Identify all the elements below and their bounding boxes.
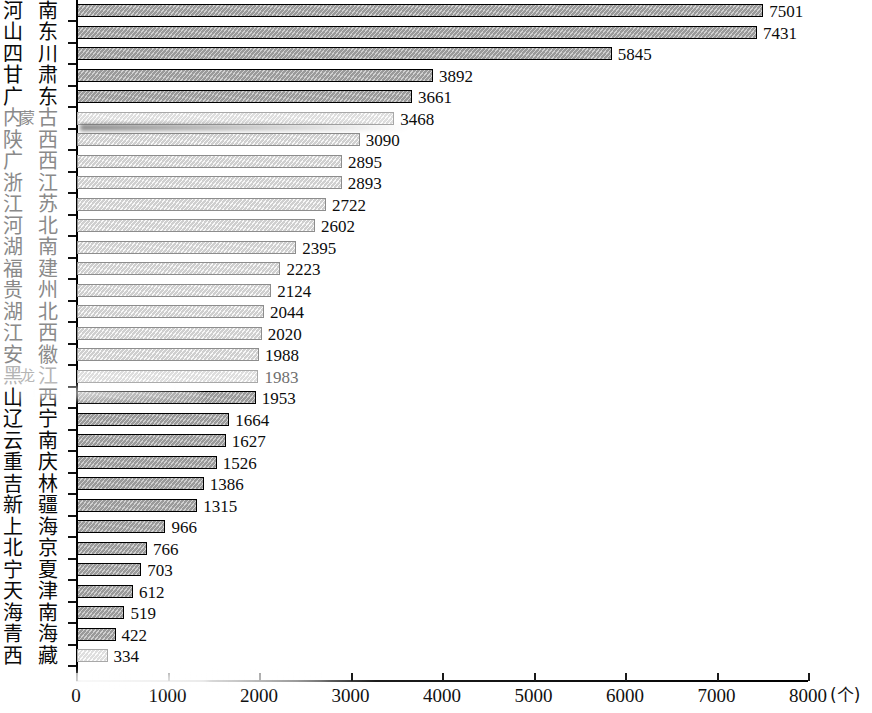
bar bbox=[77, 563, 141, 576]
category-label-char: 山 bbox=[3, 388, 23, 408]
bar-value-label: 519 bbox=[130, 605, 156, 622]
category-label-char: 安 bbox=[3, 345, 23, 365]
category-label: 山西 bbox=[0, 387, 76, 409]
y-axis-tick bbox=[68, 622, 76, 624]
category-label: 天津 bbox=[0, 581, 76, 603]
bar-value-label: 2020 bbox=[268, 326, 302, 343]
bar-value-label: 1526 bbox=[223, 455, 257, 472]
y-axis-tick bbox=[68, 429, 76, 431]
y-axis-tick bbox=[68, 300, 76, 302]
bar bbox=[77, 47, 612, 60]
category-label: 上海 bbox=[0, 516, 76, 538]
bar-value-label: 1315 bbox=[203, 498, 237, 515]
category-label: 青海 bbox=[0, 624, 76, 646]
category-label: 福建 bbox=[0, 258, 76, 280]
category-label: 四川 bbox=[0, 43, 76, 65]
bar bbox=[77, 90, 412, 103]
category-label-char: 西 bbox=[3, 646, 23, 666]
bar-value-label: 2395 bbox=[302, 240, 336, 257]
horizontal-bar-chart: 河南山东四川甘肃广东内古蒙陕西广西浙江江苏河北湖南福建贵州湖北江西安徽黑江龙山西… bbox=[0, 0, 872, 713]
category-label: 湖北 bbox=[0, 301, 76, 323]
y-axis-tick bbox=[68, 644, 76, 646]
category-label-char: 肃 bbox=[38, 65, 58, 85]
category-label: 云南 bbox=[0, 430, 76, 452]
y-axis-tick bbox=[68, 85, 76, 87]
y-axis-tick bbox=[68, 171, 76, 173]
x-axis-tick-label: 4000 bbox=[423, 686, 461, 705]
category-label-char: 江 bbox=[3, 194, 23, 214]
bar-value-label: 703 bbox=[147, 562, 173, 579]
category-label-char: 重 bbox=[3, 452, 23, 472]
category-label-char: 夏 bbox=[38, 560, 58, 580]
x-axis-tick-label: 3000 bbox=[332, 686, 370, 705]
category-label: 辽宁 bbox=[0, 409, 76, 431]
category-label-char: 庆 bbox=[38, 452, 58, 472]
y-axis-tick bbox=[68, 665, 76, 667]
bar bbox=[77, 305, 264, 318]
bar-value-label: 1953 bbox=[262, 390, 296, 407]
category-label-char: 上 bbox=[3, 517, 23, 537]
bar-value-label: 2044 bbox=[270, 304, 304, 321]
y-axis-tick bbox=[68, 493, 76, 495]
x-axis-tick bbox=[808, 673, 810, 681]
category-label-char: 浙 bbox=[3, 173, 23, 193]
y-axis-tick bbox=[68, 20, 76, 22]
category-label-char: 辽 bbox=[3, 409, 23, 429]
bar bbox=[77, 133, 360, 146]
category-label-char: 京 bbox=[38, 538, 58, 558]
x-axis-tick bbox=[625, 673, 627, 681]
category-label-char: 建 bbox=[38, 259, 58, 279]
x-axis-tick-label: 5000 bbox=[515, 686, 553, 705]
category-label: 甘肃 bbox=[0, 65, 76, 87]
category-label-char: 宁 bbox=[38, 409, 58, 429]
bar-value-label: 1386 bbox=[210, 476, 244, 493]
category-label-char: 江 bbox=[38, 173, 58, 193]
bar bbox=[77, 284, 271, 297]
x-axis-tick bbox=[76, 673, 78, 681]
x-axis-tick bbox=[351, 673, 353, 681]
category-label-char: 青 bbox=[3, 624, 23, 644]
x-axis-tick bbox=[717, 673, 719, 681]
bar-value-label: 2124 bbox=[277, 283, 311, 300]
bar bbox=[77, 370, 258, 383]
category-label-char: 贵 bbox=[3, 280, 23, 300]
y-axis-tick bbox=[68, 579, 76, 581]
category-label-char: 陕 bbox=[3, 130, 23, 150]
bar-value-label: 1983 bbox=[264, 369, 298, 386]
category-label: 山东 bbox=[0, 22, 76, 44]
category-label-char: 北 bbox=[38, 302, 58, 322]
y-axis-tick bbox=[68, 214, 76, 216]
category-label: 河北 bbox=[0, 215, 76, 237]
x-axis-tick-label: 2000 bbox=[240, 686, 278, 705]
category-label: 浙江 bbox=[0, 172, 76, 194]
bar bbox=[77, 628, 116, 641]
bar-value-label: 7501 bbox=[769, 3, 803, 20]
category-label: 江西 bbox=[0, 323, 76, 345]
category-label: 内古蒙 bbox=[0, 108, 76, 130]
bar bbox=[77, 4, 763, 17]
category-label: 广东 bbox=[0, 86, 76, 108]
x-axis-unit-label: (个) bbox=[830, 686, 860, 705]
category-label-char: 山 bbox=[3, 22, 23, 42]
category-label: 北京 bbox=[0, 538, 76, 560]
bar-value-label: 2895 bbox=[348, 154, 382, 171]
bar bbox=[77, 26, 757, 39]
category-label-char: 北 bbox=[38, 216, 58, 236]
bar bbox=[77, 456, 217, 469]
category-label-char: 广 bbox=[3, 151, 23, 171]
y-axis-tick bbox=[68, 128, 76, 130]
category-label-char: 徽 bbox=[38, 345, 58, 365]
x-axis: 010002000300040005000600070008000(个) bbox=[76, 680, 872, 713]
category-label-char: 湖 bbox=[3, 237, 23, 257]
y-axis-tick bbox=[68, 558, 76, 560]
bar bbox=[77, 176, 342, 189]
y-axis-tick bbox=[68, 192, 76, 194]
y-axis-tick bbox=[68, 515, 76, 517]
category-label-char: 江 bbox=[38, 366, 58, 386]
category-label-char: 古 bbox=[38, 108, 58, 128]
category-label-char: 海 bbox=[38, 624, 58, 644]
category-label: 河南 bbox=[0, 0, 76, 22]
bar bbox=[77, 434, 226, 447]
bar-value-label: 2602 bbox=[321, 218, 355, 235]
bar-value-label: 2223 bbox=[286, 261, 320, 278]
